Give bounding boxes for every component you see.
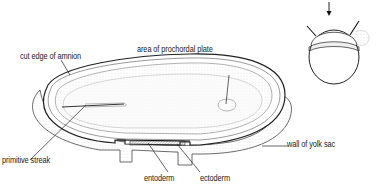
label-cut-edge-of-amnion: cut edge of amnion — [20, 52, 81, 61]
embryo-illustration — [0, 0, 381, 185]
diagram-canvas: cut edge of amnion area of prochordal pl… — [0, 0, 381, 185]
label-ectoderm: ectoderm — [200, 174, 230, 183]
inset-cut-line-left — [307, 26, 316, 36]
label-area-of-prochordal-plate: area of prochordal plate — [137, 45, 213, 54]
label-entoderm: entoderm — [144, 174, 174, 183]
label-wall-of-yolk-sac: wall of yolk sac — [287, 140, 335, 149]
label-primitive-streak: primitive streak — [2, 156, 50, 165]
orientation-inset — [307, 2, 369, 84]
inset-view-arrow-head — [327, 11, 332, 16]
